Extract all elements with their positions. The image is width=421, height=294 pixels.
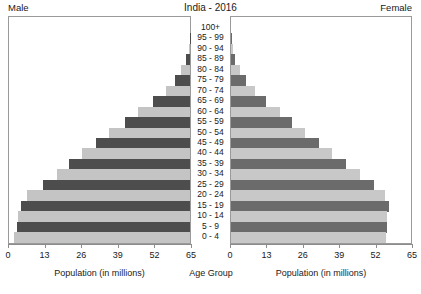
male-bar-row: [9, 128, 190, 139]
female-plot-panel: [230, 16, 412, 244]
age-group-label: 20 - 24: [191, 189, 230, 200]
age-group-label: 95 - 99: [191, 32, 230, 43]
male-bar: [186, 54, 190, 65]
male-bar: [17, 222, 190, 233]
male-bar-row: [9, 44, 190, 55]
female-bar: [231, 232, 386, 243]
age-group-label: 40 - 44: [191, 147, 230, 158]
female-bar-row: [231, 33, 411, 44]
male-bar-row: [9, 65, 190, 76]
female-bar-row: [231, 180, 411, 191]
age-group-label: 5 - 9: [191, 221, 230, 232]
female-bar: [231, 54, 235, 65]
axis-tick-label: 39: [324, 250, 354, 260]
male-bar-row: [9, 86, 190, 97]
female-bar-row: [231, 128, 411, 139]
male-bar: [14, 232, 190, 243]
age-group-label: 35 - 39: [191, 158, 230, 169]
female-bar: [231, 128, 305, 139]
female-bar: [231, 86, 255, 97]
male-bar: [82, 148, 190, 159]
axis-tick-label: 13: [251, 250, 281, 260]
axis-tick: [339, 244, 340, 248]
female-x-axis: [230, 244, 412, 245]
male-bar: [125, 117, 190, 128]
axis-tick: [266, 244, 267, 248]
axis-tick-label: 52: [139, 250, 169, 260]
male-x-axis-title: Population (in millions): [8, 268, 191, 278]
male-bar: [43, 180, 190, 191]
female-bar: [231, 96, 266, 107]
female-bar: [231, 148, 332, 159]
male-bar: [166, 86, 190, 97]
axis-tick: [45, 244, 46, 248]
female-bar-row: [231, 54, 411, 65]
male-bar-group: [9, 17, 190, 243]
axis-tick-label: 65: [176, 250, 206, 260]
axis-tick-label: 0: [215, 250, 245, 260]
male-bar-row: [9, 117, 190, 128]
male-bar-row: [9, 190, 190, 201]
male-bar-row: [9, 211, 190, 222]
female-bar-row: [231, 107, 411, 118]
female-bar: [231, 65, 240, 76]
male-bar-row: [9, 148, 190, 159]
age-group-axis: 100+95 - 9990 - 9485 - 8980 - 8475 - 797…: [191, 16, 230, 244]
female-bar-row: [231, 96, 411, 107]
female-bar: [231, 222, 387, 233]
female-bar: [231, 159, 346, 170]
age-group-label: 15 - 19: [191, 200, 230, 211]
male-bar: [27, 190, 190, 201]
female-bar: [231, 201, 389, 212]
axis-tick-label: 13: [30, 250, 60, 260]
axis-tick-label: 65: [397, 250, 421, 260]
female-bar-row: [231, 148, 411, 159]
female-bar-row: [231, 75, 411, 86]
female-bar: [231, 75, 246, 86]
axis-tick: [230, 244, 231, 248]
male-bar-row: [9, 107, 190, 118]
age-group-label: 10 - 14: [191, 210, 230, 221]
male-bar: [138, 107, 190, 118]
female-bar-row: [231, 159, 411, 170]
female-bar: [231, 169, 360, 180]
female-bar-row: [231, 190, 411, 201]
male-bar-row: [9, 33, 190, 44]
population-pyramid-chart: Male India - 2016 Female 100+95 - 9990 -…: [0, 0, 421, 294]
chart-title: India - 2016: [0, 2, 421, 13]
female-bar: [231, 138, 319, 149]
age-group-label: 30 - 34: [191, 168, 230, 179]
male-plot-panel: [8, 16, 191, 244]
axis-tick: [118, 244, 119, 248]
age-group-label: 70 - 74: [191, 85, 230, 96]
female-bar: [231, 117, 292, 128]
age-group-label: 80 - 84: [191, 64, 230, 75]
female-bar-row: [231, 232, 411, 243]
axis-tick: [303, 244, 304, 248]
axis-tick-label: 52: [361, 250, 391, 260]
age-group-label: 45 - 49: [191, 137, 230, 148]
axis-tick-label: 26: [288, 250, 318, 260]
male-bar-row: [9, 201, 190, 212]
age-group-label: 60 - 64: [191, 106, 230, 117]
female-bar-row: [231, 117, 411, 128]
female-side-label: Female: [380, 2, 412, 13]
male-bar-row: [9, 232, 190, 243]
axis-tick: [412, 244, 413, 248]
female-bar-row: [231, 222, 411, 233]
female-bar: [231, 107, 280, 118]
male-bar: [21, 201, 190, 212]
female-bar-row: [231, 23, 411, 34]
female-bar-row: [231, 201, 411, 212]
age-group-label: 85 - 89: [191, 53, 230, 64]
male-bar-row: [9, 54, 190, 65]
axis-tick-label: 0: [0, 250, 23, 260]
male-bar: [18, 211, 190, 222]
female-bar-group: [231, 17, 411, 243]
male-bar-row: [9, 138, 190, 149]
male-bar-row: [9, 222, 190, 233]
axis-tick-label: 39: [103, 250, 133, 260]
female-bar: [231, 44, 233, 55]
female-bar: [231, 211, 387, 222]
male-bar: [69, 159, 190, 170]
